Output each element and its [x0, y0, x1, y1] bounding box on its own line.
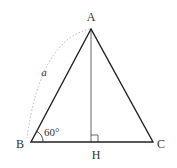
angle-b-arc: [37, 132, 43, 143]
vertex-label-c: C: [157, 137, 165, 151]
triangle-diagram: A B C H a 60°: [0, 0, 177, 168]
vertex-label-b: B: [16, 137, 24, 151]
angle-label-b: 60°: [44, 126, 59, 138]
side-length-arc: [27, 29, 90, 138]
right-angle-marker: [91, 135, 98, 142]
side-label-a: a: [41, 66, 47, 78]
foot-label-h: H: [92, 148, 101, 162]
vertex-label-a: A: [87, 10, 96, 24]
